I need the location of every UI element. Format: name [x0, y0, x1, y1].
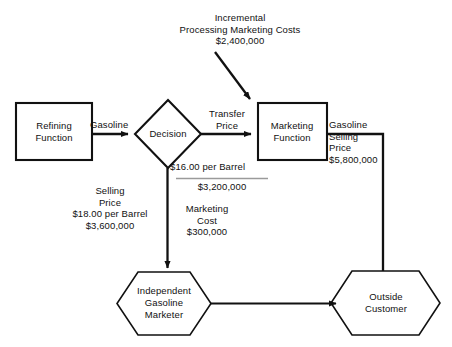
- marketing-function-line1: Marketing: [271, 120, 314, 131]
- marketing-function-label: MarketingFunction: [256, 120, 328, 144]
- marketing-cost-label: MarketingCost$300,000: [170, 203, 244, 238]
- outside-customer-label: OutsideCustomer: [346, 291, 426, 315]
- independent-marketer-line1: Independent: [137, 285, 191, 296]
- incremental-costs-label: IncrementalProcessing Marketing Costs$2,…: [136, 12, 344, 47]
- gasoline-left-label: Gasoline: [90, 119, 128, 131]
- incremental-costs-line3: $2,400,000: [216, 35, 265, 46]
- refining-function-line2: Function: [35, 132, 72, 143]
- selling-price-left-line2: Price: [99, 197, 121, 208]
- gasoline-right-line2: Selling: [329, 131, 358, 142]
- incremental-costs-line2: Processing Marketing Costs: [180, 24, 301, 35]
- diagram-canvas: RefiningFunction Decision MarketingFunct…: [0, 0, 452, 347]
- transfer-math-amount-per-barrel: $16.00 per Barrel: [170, 161, 245, 173]
- marketing-cost-line1: Marketing: [186, 203, 229, 214]
- transfer-price-line1: Transfer: [209, 108, 245, 119]
- refining-function-line1: Refining: [36, 120, 72, 131]
- selling-price-left-label: SellingPrice$18.00 per Barrel$3,600,000: [58, 185, 162, 231]
- gasoline-right-line4: $5,800,000: [329, 154, 378, 165]
- outside-customer-line2: Customer: [365, 303, 407, 314]
- independent-gasoline-marketer-label: IndependentGasolineMarketer: [117, 285, 211, 321]
- selling-price-left-line1: Selling: [95, 185, 124, 196]
- transfer-math-line1: $16.00 per Barrel: [170, 161, 245, 172]
- gasoline-right-line3: Price: [329, 142, 351, 153]
- transfer-math-line2: $3,200,000: [198, 181, 247, 192]
- independent-marketer-line2: Gasoline: [145, 297, 183, 308]
- transfer-math-total: $3,200,000: [176, 181, 268, 193]
- outside-customer-line1: Outside: [369, 291, 402, 302]
- decision-label: Decision: [135, 128, 201, 140]
- decision-line1: Decision: [149, 128, 186, 139]
- gasoline-right-label: GasolineSellingPrice$5,800,000: [329, 119, 378, 165]
- connector-incremental-costs-to-marketing: [215, 52, 250, 99]
- gasoline-right-line1: Gasoline: [329, 119, 367, 130]
- transfer-price-label: TransferPrice: [198, 108, 256, 131]
- gasoline-left-text: Gasoline: [90, 119, 128, 130]
- marketing-cost-line3: $300,000: [187, 226, 227, 237]
- marketing-function-line2: Function: [273, 132, 310, 143]
- refining-function-label: RefiningFunction: [16, 120, 92, 144]
- incremental-costs-line1: Incremental: [215, 12, 266, 23]
- marketing-cost-line2: Cost: [197, 215, 217, 226]
- independent-marketer-line3: Marketer: [145, 309, 183, 320]
- transfer-price-line2: Price: [216, 120, 238, 131]
- selling-price-left-line3: $18.00 per Barrel: [72, 208, 147, 219]
- selling-price-left-line4: $3,600,000: [86, 220, 135, 231]
